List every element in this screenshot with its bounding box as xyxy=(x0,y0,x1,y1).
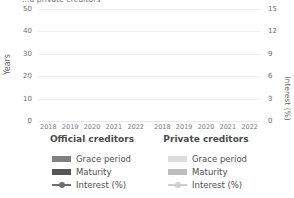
y-tick-label-left: 40 xyxy=(23,27,32,35)
legend-item-maturity-official[interactable]: Maturity xyxy=(52,165,131,178)
x-tick-label: 2018 xyxy=(40,123,57,131)
y-tick-label-left: 0 xyxy=(28,117,32,125)
y-tick-label-right: 6 xyxy=(268,72,272,80)
interest-line-marker-icon xyxy=(52,181,71,188)
gridline xyxy=(38,54,260,55)
grace-period-swatch-icon xyxy=(168,156,187,162)
panel-plot-official xyxy=(38,9,146,121)
gridline xyxy=(38,76,260,77)
legend-label: Maturity xyxy=(192,167,227,177)
panel-plot-private xyxy=(152,9,260,121)
x-tick-label: 2022 xyxy=(241,123,258,131)
x-tick-label: 2021 xyxy=(106,123,123,131)
y-tick-label-left: 50 xyxy=(23,5,32,13)
gridline xyxy=(38,99,260,100)
x-axis-official: 2018 2019 2020 2021 2022 xyxy=(38,123,146,133)
legend-label: Maturity xyxy=(76,167,111,177)
gridline xyxy=(38,121,260,122)
gridline xyxy=(38,31,260,32)
x-tick-label: 2022 xyxy=(127,123,144,131)
legend-label: Grace period xyxy=(76,154,131,164)
gridline xyxy=(38,9,260,10)
y-tick-label-left: 10 xyxy=(23,95,32,103)
x-tick-label: 2019 xyxy=(62,123,79,131)
maturity-swatch-icon xyxy=(168,169,187,175)
maturity-swatch-icon xyxy=(52,169,71,175)
panel-caption-private: Private creditors xyxy=(152,134,260,144)
x-tick-label: 2018 xyxy=(154,123,171,131)
x-tick-labels-private: 2018 2019 2020 2021 2022 xyxy=(152,123,260,131)
x-tick-label: 2021 xyxy=(220,123,237,131)
x-tick-label: 2020 xyxy=(198,123,215,131)
y-tick-label-right: 9 xyxy=(268,50,272,58)
legend-label: Grace period xyxy=(192,154,247,164)
plot-area xyxy=(38,9,260,121)
y-tick-label-left: 20 xyxy=(23,72,32,80)
interest-line-marker-icon xyxy=(168,181,187,188)
x-tick-label: 2020 xyxy=(84,123,101,131)
legend-item-maturity-private[interactable]: Maturity xyxy=(168,165,247,178)
legend-label: Interest (%) xyxy=(76,180,126,190)
y-axis-left: Years 01020304050 xyxy=(0,9,36,121)
x-tick-labels-official: 2018 2019 2020 2021 2022 xyxy=(38,123,146,131)
legend-label: Interest (%) xyxy=(192,180,242,190)
y-tick-label-right: 12 xyxy=(268,27,277,35)
y-tick-label-right: 3 xyxy=(268,95,272,103)
grace-period-swatch-icon xyxy=(52,156,71,162)
legend-item-interest-private[interactable]: Interest (%) xyxy=(168,178,247,191)
legend-item-grace-period-private[interactable]: Grace period xyxy=(168,152,247,165)
legend-official: Grace period Maturity Interest (%) xyxy=(52,152,131,191)
y-tick-label-left: 30 xyxy=(23,50,32,58)
y-tick-label-right: 15 xyxy=(268,5,277,13)
x-axis-private: 2018 2019 2020 2021 2022 xyxy=(152,123,260,133)
panel-caption-official: Official creditors xyxy=(38,134,146,144)
chart-title: ...d private creditors xyxy=(22,0,100,4)
y-tick-label-right: 0 xyxy=(268,117,272,125)
y-axis-right-title: Interest (%) xyxy=(283,66,292,132)
y-axis-left-title: Years xyxy=(3,39,12,91)
legend-item-grace-period-official[interactable]: Grace period xyxy=(52,152,131,165)
legend-item-interest-official[interactable]: Interest (%) xyxy=(52,178,131,191)
x-tick-label: 2019 xyxy=(176,123,193,131)
legend-private: Grace period Maturity Interest (%) xyxy=(168,152,247,191)
